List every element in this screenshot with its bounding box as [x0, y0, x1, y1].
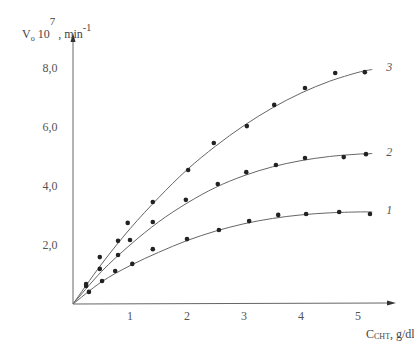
data-point — [151, 247, 156, 252]
y-tick-label: 2,0 — [43, 238, 58, 252]
data-point — [184, 198, 189, 203]
y-tick-label: 4,0 — [43, 179, 58, 193]
y-tick-label: 8,0 — [43, 61, 58, 75]
data-point — [363, 70, 368, 75]
x-tick-labels: 12345 — [127, 309, 361, 323]
x-axis — [73, 303, 388, 304]
chart: 12345 2,04,06,08,0 123 Vo 107 , min-1 CC… — [0, 0, 414, 354]
data-point — [185, 237, 190, 242]
y-tick-label: 6,0 — [43, 120, 58, 134]
data-point — [303, 156, 308, 161]
x-tick-label: 5 — [355, 309, 361, 323]
x-tick-label: 4 — [298, 309, 304, 323]
data-point — [274, 163, 279, 168]
data-point — [247, 219, 252, 224]
axes — [71, 33, 397, 306]
data-point — [303, 86, 308, 91]
curve-labels: 123 — [385, 60, 392, 216]
data-point — [244, 170, 249, 175]
data-point — [211, 141, 216, 146]
fit-curve-3 — [73, 69, 372, 304]
data-point — [84, 282, 89, 287]
data-point — [364, 152, 369, 157]
data-point — [125, 221, 130, 226]
y-tick-labels: 2,04,06,08,0 — [43, 61, 58, 252]
data-point — [368, 212, 373, 217]
x-tick-label: 3 — [241, 309, 247, 323]
y-axis-label: Vo 107 , min-1 — [22, 15, 91, 43]
data-point — [87, 290, 92, 295]
data-point — [116, 239, 121, 244]
data-point — [215, 182, 220, 187]
fit-curves — [73, 69, 372, 304]
data-point — [304, 212, 309, 217]
data-point — [113, 269, 118, 274]
x-axis-arrow-icon — [387, 301, 396, 306]
data-point — [333, 71, 338, 76]
data-point — [130, 262, 135, 267]
data-point — [276, 213, 281, 218]
curve-label-1: 1 — [386, 203, 392, 217]
data-point — [116, 253, 121, 258]
curve-label-2: 2 — [386, 145, 392, 159]
data-point — [272, 103, 277, 108]
data-point — [341, 155, 346, 160]
data-point — [245, 124, 250, 129]
data-point — [97, 255, 102, 260]
data-point — [100, 279, 105, 284]
curve-label-3: 3 — [385, 60, 392, 74]
x-tick-label: 1 — [127, 309, 133, 323]
data-point — [128, 238, 133, 243]
data-point — [151, 220, 156, 225]
data-point — [217, 228, 222, 233]
fit-curve-1 — [73, 212, 372, 304]
data-point — [97, 267, 102, 272]
x-axis-label: CCHT, g/dl — [366, 327, 414, 341]
data-point — [186, 168, 191, 173]
data-point — [337, 210, 342, 215]
x-tick-label: 2 — [184, 309, 190, 323]
data-point — [151, 200, 156, 205]
